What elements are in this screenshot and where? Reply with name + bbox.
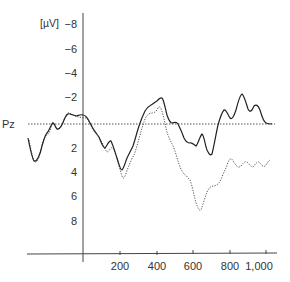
svg-text:−8: −8 — [64, 18, 77, 30]
svg-text:200: 200 — [111, 260, 129, 272]
svg-text:400: 400 — [148, 260, 166, 272]
dotted-waveform — [29, 107, 270, 210]
svg-text:8: 8 — [71, 215, 77, 227]
x-axis — [27, 253, 277, 254]
svg-text:6: 6 — [71, 190, 77, 202]
svg-text:2: 2 — [71, 142, 77, 154]
svg-text:−6: −6 — [64, 43, 77, 55]
y-tick-labels: −8 −6 −4 −2 2 4 6 8 — [64, 18, 77, 227]
solid-waveform — [28, 94, 272, 170]
svg-text:800: 800 — [221, 260, 239, 272]
svg-text:4: 4 — [71, 166, 77, 178]
svg-text:600: 600 — [184, 260, 202, 272]
svg-text:−4: −4 — [64, 67, 77, 79]
svg-text:−2: −2 — [64, 91, 77, 103]
y-unit-label: [µV] — [40, 17, 59, 29]
svg-text:1,000: 1,000 — [245, 260, 273, 272]
x-tick-labels: 200 400 600 800 1,000 — [111, 260, 273, 272]
erp-chart: [µV] −8 −6 −4 −2 2 4 6 8 Pz 200 400 600 … — [0, 0, 290, 282]
x-ticks — [120, 250, 266, 255]
channel-label: Pz — [2, 118, 15, 130]
